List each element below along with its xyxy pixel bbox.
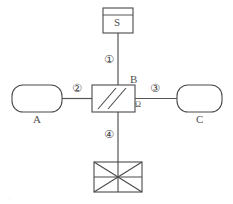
tank-c-body bbox=[177, 85, 222, 112]
valve-block-label-b: B bbox=[130, 74, 137, 85]
flow-label-4: ④ bbox=[104, 129, 114, 140]
valve-block-port-label: Ω bbox=[135, 101, 141, 109]
corner-mark: . bbox=[8, 193, 10, 200]
diagram-graphics bbox=[0, 0, 233, 204]
flow-label-1: ① bbox=[104, 54, 114, 65]
tank-a-label: A bbox=[33, 114, 41, 125]
source-vessel-label: S bbox=[114, 17, 120, 28]
flow-label-3: ③ bbox=[150, 83, 160, 94]
tank-a-body bbox=[12, 85, 62, 112]
tank-c-label: C bbox=[196, 114, 203, 125]
flow-label-2: ② bbox=[72, 83, 82, 94]
diagram-canvas: S A C B Ω ① ② ③ ④ . bbox=[0, 0, 233, 204]
